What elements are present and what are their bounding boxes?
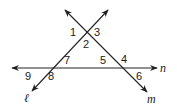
line-n-label: n: [160, 61, 166, 75]
angle-label-7: 7: [64, 54, 70, 66]
angle-label-5: 5: [100, 54, 106, 66]
angle-label-9: 9: [25, 70, 31, 82]
line-m: [65, 10, 147, 92]
angle-label-2: 2: [83, 38, 89, 50]
line-l: [32, 10, 108, 91]
angle-label-3: 3: [94, 26, 100, 38]
angle-label-1: 1: [70, 26, 76, 38]
line-l-label: ℓ: [24, 91, 29, 104]
angle-label-8: 8: [48, 70, 54, 82]
angle-label-6: 6: [136, 70, 142, 82]
line-m-label: m: [147, 92, 156, 104]
angle-label-4: 4: [121, 53, 127, 65]
geometry-diagram: n ℓ m 1 3 2 7 5 4 9 8 6: [0, 0, 177, 104]
